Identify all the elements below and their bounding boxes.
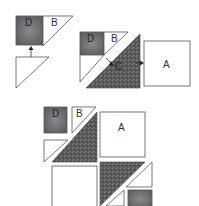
piece-b-label: B: [111, 33, 118, 44]
piece-a-label: A: [118, 122, 125, 133]
piece-b-label: B: [76, 108, 83, 119]
piece-a-label: A: [163, 59, 170, 70]
half-square-triangle: [16, 57, 49, 88]
piece-c-label: C: [115, 61, 122, 72]
step3-block: D B A: [44, 107, 152, 206]
step2-unit: D B C A: [80, 32, 190, 88]
piece-b-label: B: [51, 17, 58, 28]
arrow-to-a-head-icon: [140, 61, 144, 66]
piece-d-label: D: [52, 108, 59, 119]
quilt-assembly-diagram: D B D B C A D B A: [0, 0, 199, 206]
piece-d-label: D: [87, 33, 94, 44]
piece-a-square: [100, 112, 145, 157]
piece-d-label: D: [25, 17, 32, 28]
arrow-up-head-icon: [29, 46, 34, 50]
light-square: [52, 166, 97, 206]
piece-d-square: [128, 190, 152, 206]
step1-unit: D B: [16, 16, 73, 88]
piece-b-triangle: [43, 16, 73, 46]
